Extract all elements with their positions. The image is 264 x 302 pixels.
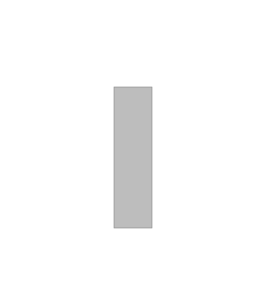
bar-magnet-field-diagram [0,0,264,302]
bar-magnet [114,87,152,228]
